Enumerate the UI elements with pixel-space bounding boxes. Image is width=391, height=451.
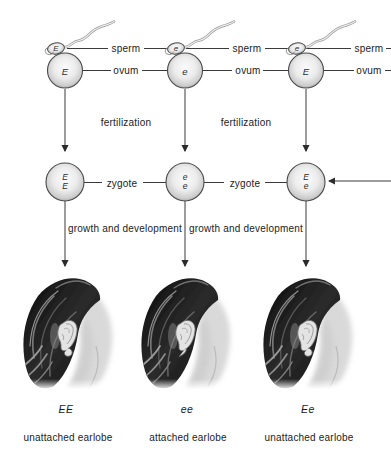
phenotype-label-1: unattached earlobe xyxy=(23,432,112,443)
fertilization-label-1: fertilization xyxy=(101,117,151,128)
head-profile-unattached-2 xyxy=(262,276,366,390)
head-profile-attached xyxy=(140,276,244,390)
growth-label-1: growth and development xyxy=(68,223,182,234)
sperm-allele-2: e xyxy=(174,43,178,52)
earlobe-genetics-diagram: sperm sperm sperm ovum ovum ovum fertili… xyxy=(0,0,391,451)
zygote-allele-bottom: e xyxy=(183,181,188,191)
genotype-label-1: EE xyxy=(58,403,73,415)
ovum-label-2: ovum xyxy=(235,65,260,76)
genotype-label-2: ee xyxy=(181,403,194,415)
zygote-allele-bottom: e xyxy=(304,181,309,191)
ovum-allele-2: e xyxy=(182,65,187,76)
ovum-label-1: ovum xyxy=(113,65,138,76)
sperm-label-2: sperm xyxy=(233,43,262,54)
sperm-label-3: sperm xyxy=(355,43,384,54)
ovum-label-3: ovum xyxy=(356,65,381,76)
sperm-allele-3: e xyxy=(295,43,299,52)
phenotype-label-2: attached earlobe xyxy=(149,432,227,443)
head-profile-unattached-1 xyxy=(22,276,126,390)
genotype-label-3: Ee xyxy=(301,403,315,415)
zygote-label-1: zygote xyxy=(107,178,138,189)
ovum-allele-3: E xyxy=(303,65,309,76)
zygote-allele-bottom: E xyxy=(62,181,68,191)
sperm-label-1: sperm xyxy=(112,43,141,54)
zygote-alleles-1: EE xyxy=(62,173,68,191)
zygote-alleles-3: Ee xyxy=(303,173,309,191)
zygote-alleles-2: ee xyxy=(183,173,188,191)
fertilization-label-2: fertilization xyxy=(221,117,271,128)
ovum-allele-1: E xyxy=(62,65,68,76)
growth-arrows xyxy=(65,201,306,266)
growth-label-2: growth and development xyxy=(189,223,303,234)
sperm-allele-1: E xyxy=(53,43,58,52)
zygote-label-2: zygote xyxy=(230,178,261,189)
phenotype-label-3: unattached earlobe xyxy=(264,432,353,443)
